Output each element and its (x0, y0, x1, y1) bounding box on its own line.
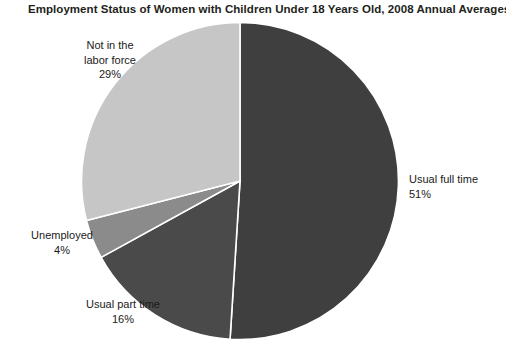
slice-value-usual-part-time: 16% (60, 312, 186, 327)
pie-slice-usual-full-time (230, 23, 398, 340)
slice-label-not-in-labor-force-line1: Not in the (86, 39, 133, 51)
slice-label-usual-part-time-name: Usual part time (86, 298, 160, 310)
slice-label-usual-full-time: Usual full time 51% (409, 172, 478, 201)
slice-label-not-in-labor-force-line2: labor force (84, 54, 136, 66)
slice-label-unemployed: Unemployed 4% (14, 228, 110, 257)
slice-label-usual-full-time-name: Usual full time (409, 173, 478, 185)
slice-label-not-in-labor-force: Not in the labor force 29% (58, 38, 162, 82)
slice-value-usual-full-time: 51% (409, 187, 478, 202)
slice-value-not-in-labor-force: 29% (58, 67, 162, 82)
chart-canvas: Employment Status of Women with Children… (0, 0, 506, 344)
page-title: Employment Status of Women with Children… (28, 3, 488, 15)
slice-value-unemployed: 4% (14, 243, 110, 258)
slice-label-usual-part-time: Usual part time 16% (60, 297, 186, 326)
slice-label-unemployed-name: Unemployed (31, 229, 93, 241)
